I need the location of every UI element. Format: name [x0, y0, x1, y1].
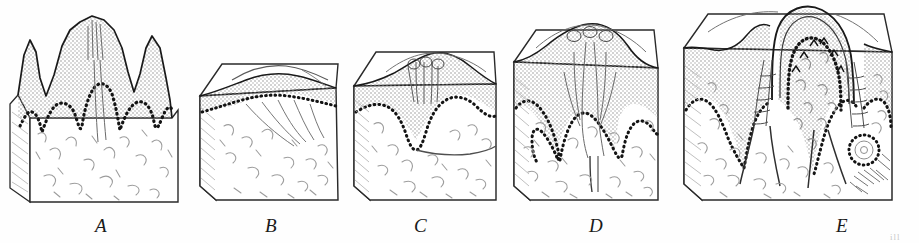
panel-e-label: E	[836, 216, 848, 235]
figure-root: A	[0, 0, 919, 243]
panel-e	[668, 0, 908, 215]
panel-d-label: D	[589, 216, 603, 235]
panel-c-label: C	[414, 216, 427, 235]
panel-a	[0, 0, 200, 215]
block-front-face	[30, 110, 178, 202]
panel-b-label: B	[265, 216, 277, 235]
panel-b	[190, 0, 350, 215]
panel-c	[342, 0, 512, 215]
panel-d	[500, 0, 680, 215]
panel-a-label: A	[95, 216, 107, 235]
page-edge-artifact: ill	[890, 232, 901, 242]
